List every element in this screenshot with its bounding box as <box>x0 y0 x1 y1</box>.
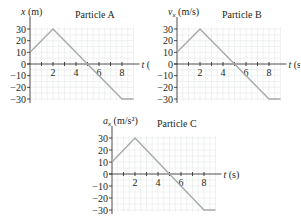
y-tick-label: 10 <box>98 157 108 168</box>
chart-svg: 3020100−10−20−302468t (s)x (m)Particle A <box>0 0 150 110</box>
y-tick-label: −30 <box>92 205 108 216</box>
y-tick-label: 30 <box>16 24 26 35</box>
y-tick-label: 20 <box>163 35 173 46</box>
chart-title: Particle A <box>75 9 115 20</box>
chart-svg: 3020100−10−20−302468t (s)vx (m/s)Particl… <box>147 0 300 110</box>
x-tick-label: 2 <box>198 67 203 78</box>
chart-title: Particle C <box>157 118 197 129</box>
x-tick-label: 2 <box>51 67 56 78</box>
y-axis-label: vx (m/s) <box>168 6 199 19</box>
y-tick-label: 10 <box>163 47 173 58</box>
y-tick-label: −10 <box>10 70 26 81</box>
y-tick-label: −30 <box>10 94 26 105</box>
y-tick-label: −20 <box>92 193 108 204</box>
x-axis-label: t (s) <box>289 59 301 71</box>
y-axis-label: ax (m/s²) <box>103 115 138 128</box>
x-tick-label: 2 <box>133 177 138 188</box>
chart-particle-c: 3020100−10−20−302468t (s)ax (m/s²)Partic… <box>82 110 242 224</box>
y-tick-label: 20 <box>98 145 108 156</box>
y-tick-label: 30 <box>163 24 173 35</box>
chart-particle-a: 3020100−10−20−302468t (s)x (m)Particle A <box>0 0 150 110</box>
y-tick-label: 0 <box>168 59 173 70</box>
y-tick-label: −20 <box>10 82 26 93</box>
y-tick-label: 20 <box>16 35 26 46</box>
chart-svg: 3020100−10−20−302468t (s)ax (m/s²)Partic… <box>82 110 242 224</box>
chart-particle-b: 3020100−10−20−302468t (s)vx (m/s)Particl… <box>147 0 300 110</box>
x-tick-label: 4 <box>156 177 161 188</box>
y-tick-label: 10 <box>16 47 26 58</box>
x-tick-label: 4 <box>221 67 226 78</box>
x-tick-label: 8 <box>202 177 207 188</box>
x-axis-label: t (s) <box>224 169 240 181</box>
x-tick-label: 8 <box>267 67 272 78</box>
x-tick-label: 8 <box>120 67 125 78</box>
x-tick-label: 4 <box>74 67 79 78</box>
y-tick-label: 30 <box>98 133 108 144</box>
y-tick-label: −10 <box>92 181 108 192</box>
y-tick-label: −20 <box>157 82 173 93</box>
y-tick-label: −10 <box>157 70 173 81</box>
chart-title: Particle B <box>222 9 262 20</box>
y-tick-label: 0 <box>21 59 26 70</box>
y-tick-label: 0 <box>103 169 108 180</box>
y-tick-label: −30 <box>157 94 173 105</box>
y-axis-label: x (m) <box>20 6 42 18</box>
